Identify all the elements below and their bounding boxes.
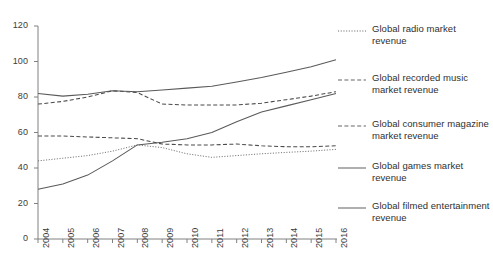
series-line-3 [38, 93, 336, 189]
legend-item: Global recorded music market revenue [338, 72, 493, 95]
legend-item-label: Global games market revenue [372, 160, 493, 183]
legend-line-swatch-dashed-icon [338, 121, 366, 131]
chart-container: 120100806040200 200420052006200720082009… [0, 0, 493, 278]
legend-line-swatch-dotted-icon [338, 26, 366, 36]
y-axis-tick-label: 80 [2, 92, 28, 101]
y-axis-tick-label: 60 [2, 128, 28, 137]
legend-line-swatch-solid-icon [338, 163, 366, 173]
legend-item-label: Global recorded music market revenue [372, 72, 493, 95]
legend-item: Global games market revenue [338, 160, 493, 183]
legend-item: Global consumer magazine market revenue [338, 118, 493, 141]
legend-item-label: Global filmed entertainment revenue [372, 200, 493, 223]
series-line-4 [38, 60, 336, 96]
legend-item-label: Global radio market revenue [372, 23, 493, 46]
y-axis-tick-label: 100 [2, 57, 28, 66]
x-axis-tick-label: 2008 [141, 228, 150, 248]
legend-item: Global filmed entertainment revenue [338, 200, 493, 223]
series-line-0 [38, 145, 336, 161]
x-axis-tick-label: 2010 [191, 228, 200, 248]
chart-series-group [38, 60, 336, 190]
x-axis-tick-label: 2012 [241, 228, 250, 248]
x-axis-tick-label: 2011 [216, 228, 225, 248]
legend-line-swatch-dashed-icon [338, 75, 366, 85]
x-axis-tick-label: 2013 [266, 228, 275, 248]
y-axis-tick-label: 40 [2, 163, 28, 172]
x-axis-tick-label: 2014 [290, 228, 299, 248]
x-axis-tick-label: 2009 [166, 228, 175, 248]
y-axis-tick-label: 120 [2, 21, 28, 30]
legend-item: Global radio market revenue [338, 23, 493, 46]
legend-line-swatch-solid-icon [338, 203, 366, 213]
series-line-2 [38, 136, 336, 147]
chart-axes [34, 26, 337, 243]
x-axis-tick-label: 2015 [315, 228, 324, 248]
y-axis-tick-label: 0 [2, 234, 28, 243]
x-axis-tick-label: 2007 [117, 228, 126, 248]
chart-legend: Global radio market revenueGlobal record… [338, 0, 493, 278]
x-axis-tick-label: 2004 [42, 228, 51, 248]
series-line-1 [38, 91, 336, 105]
legend-item-label: Global consumer magazine market revenue [372, 118, 493, 141]
y-axis-tick-label: 20 [2, 199, 28, 208]
x-axis-tick-label: 2006 [92, 228, 101, 248]
x-axis-tick-label: 2005 [67, 228, 76, 248]
